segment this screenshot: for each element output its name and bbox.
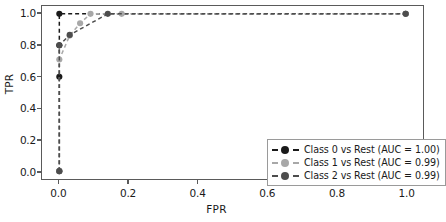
x-axis-title: FPR — [0, 203, 433, 215]
legend: Class 0 vs Rest (AUC = 1.00) Class 1 vs … — [267, 139, 446, 186]
y-tick-label: 1.0 — [2, 7, 36, 19]
legend-label: Class 1 vs Rest (AUC = 0.99) — [304, 157, 440, 168]
data-point — [105, 11, 111, 17]
legend-label: Class 2 vs Rest (AUC = 0.99) — [304, 170, 440, 181]
data-point — [77, 20, 83, 26]
x-tick-label: 0.0 — [38, 187, 78, 199]
x-tick-mark — [58, 180, 60, 184]
legend-item: Class 0 vs Rest (AUC = 1.00) — [272, 143, 440, 156]
x-tick-mark — [127, 180, 129, 184]
data-point — [56, 42, 62, 48]
data-point — [56, 168, 62, 174]
x-tick-label: 0.2 — [108, 187, 148, 199]
data-point — [67, 32, 73, 38]
legend-item: Class 2 vs Rest (AUC = 0.99) — [272, 169, 440, 182]
y-tick-label: 0.8 — [2, 39, 36, 51]
y-tick-label: 0.2 — [2, 134, 36, 146]
y-axis-title: TPR — [3, 59, 15, 109]
legend-item: Class 1 vs Rest (AUC = 0.99) — [272, 156, 440, 169]
legend-label: Class 0 vs Rest (AUC = 1.00) — [304, 144, 440, 155]
y-tick-label: 0.0 — [2, 166, 36, 178]
x-tick-mark — [197, 180, 199, 184]
legend-marker-class2 — [272, 170, 299, 181]
data-point — [403, 11, 409, 17]
data-point — [87, 11, 93, 17]
x-tick-label: 0.6 — [247, 187, 287, 199]
x-tick-label: 0.8 — [317, 187, 357, 199]
legend-marker-class1 — [272, 157, 299, 168]
legend-marker-class0 — [272, 144, 299, 155]
x-tick-label: 0.4 — [178, 187, 218, 199]
data-point — [56, 11, 62, 17]
x-tick-label: 1.0 — [387, 187, 427, 199]
